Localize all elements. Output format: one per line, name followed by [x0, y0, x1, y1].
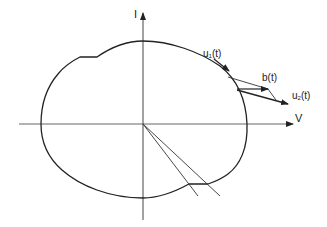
phase-diagram	[0, 0, 327, 227]
ray-2	[143, 124, 220, 196]
i-axis-label: I	[134, 9, 137, 20]
u2-vector	[237, 90, 288, 104]
u2-arg: (t)	[301, 90, 310, 101]
ray-1	[143, 124, 198, 196]
u1-vector	[214, 59, 229, 71]
u2-label: u2(t)	[292, 91, 310, 101]
v-axis-label: V	[295, 113, 302, 124]
closed-curve	[41, 41, 247, 198]
b-label: b(t)	[262, 73, 277, 83]
u1-label: u1(t)	[203, 49, 221, 59]
u1-arg: (t)	[212, 48, 221, 59]
